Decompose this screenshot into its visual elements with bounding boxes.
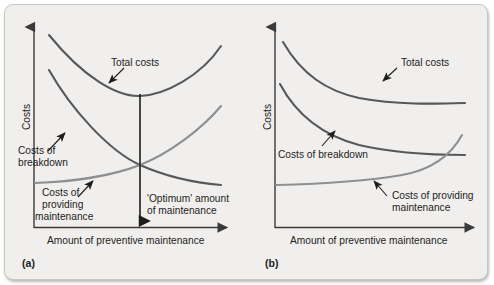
leader-total-costs-b [383, 68, 397, 81]
leader-costs-of-providing-a [78, 181, 93, 197]
label-costs-of-providing-a-line3: maintenance [35, 211, 93, 224]
label-costs-of-breakdown-a-line1: Costs of [18, 145, 55, 158]
y-axis-label-a: Costs [21, 104, 32, 130]
figure-container: Costs Total costs Costs of breakdown Cos… [4, 4, 488, 280]
panel-caption-a: (a) [22, 257, 35, 269]
x-axis-label-b: Amount of preventive maintenance [290, 235, 447, 248]
leader-costs-of-providing-b [374, 181, 387, 196]
label-costs-of-providing-a-line2: providing [42, 199, 83, 212]
y-axis-label-b: Costs [262, 104, 273, 130]
chart-panel-a: Costs Total costs Costs of breakdown Cos… [5, 5, 247, 281]
label-optimum-amount-a-line2: of maintenance [147, 205, 217, 218]
label-costs-of-providing-b-line1: Costs of providing [392, 190, 474, 203]
curve-costs-of-providing-a [35, 106, 221, 183]
label-total-costs-a: Total costs [111, 57, 159, 70]
x-axis-label-a: Amount of preventive maintenance [47, 235, 204, 248]
leader-total-costs-a [109, 68, 124, 83]
curve-costs-of-breakdown-b [280, 84, 465, 155]
panel-caption-b: (b) [265, 257, 279, 269]
label-costs-of-providing-b-line2: maintenance [392, 202, 450, 215]
chart-panel-b: Costs Total costs Costs of breakdown Cos… [247, 5, 489, 281]
label-optimum-amount-a-line1: 'Optimum' amount [147, 193, 229, 206]
curve-total-costs-b [283, 42, 465, 104]
label-costs-of-breakdown-b: Costs of breakdown [278, 149, 368, 162]
label-costs-of-providing-a-line1: Costs of [42, 187, 79, 200]
label-total-costs-b: Total costs [401, 57, 449, 70]
label-costs-of-breakdown-a-line2: breakdown [18, 157, 68, 170]
